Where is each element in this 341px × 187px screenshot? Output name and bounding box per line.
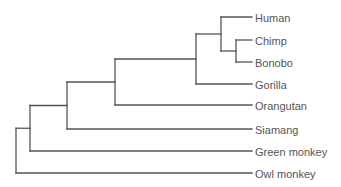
tree-branches <box>16 17 252 173</box>
leaf-label-gorilla: Gorilla <box>255 79 288 91</box>
leaf-label-human: Human <box>255 12 290 24</box>
leaf-label-bonobo: Bonobo <box>255 57 293 69</box>
leaf-labels: Human Chimp Bonobo Gorilla Orangutan Sia… <box>255 12 328 180</box>
leaf-label-orangutan: Orangutan <box>255 100 307 112</box>
leaf-label-chimp: Chimp <box>255 35 287 47</box>
leaf-label-siamang: Siamang <box>255 124 298 136</box>
phylogenetic-tree: Human Chimp Bonobo Gorilla Orangutan Sia… <box>0 0 341 187</box>
leaf-label-green-monkey: Green monkey <box>255 146 328 158</box>
leaf-label-owl-monkey: Owl monkey <box>255 168 316 180</box>
